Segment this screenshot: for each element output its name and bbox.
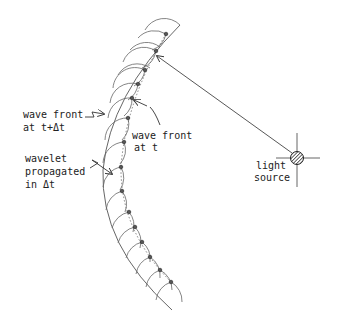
- outer-wave-front: [103, 25, 180, 310]
- inner-front-label-2: at t: [134, 142, 158, 153]
- outer-front-label-1: wave front: [23, 109, 83, 120]
- wavelet-label-3: in Δt: [25, 179, 55, 190]
- huygens-diagram: wave front at t+Δt wave front at t wavel…: [0, 0, 344, 324]
- source-label-1: light: [256, 160, 286, 171]
- outer-front-leader: [85, 112, 104, 117]
- source-label-2: source: [254, 172, 290, 183]
- wavelet-label-1: wavelet: [25, 153, 67, 164]
- wavelet-leader: [90, 160, 112, 174]
- light-source-icon: [291, 152, 304, 165]
- inner-front-label-1: wave front: [132, 130, 192, 141]
- wavelets: [103, 18, 182, 302]
- wavelet-label-2: propagated: [25, 166, 85, 177]
- outer-front-label-2: at t+Δt: [23, 122, 65, 133]
- inner-front-leader: [150, 107, 160, 125]
